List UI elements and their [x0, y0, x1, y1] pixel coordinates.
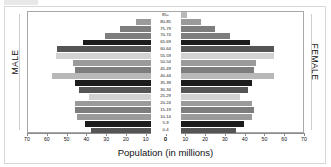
female-bar: [166, 73, 274, 79]
pyramid-row: 85+: [28, 12, 303, 19]
pyramid-row: 40-44: [28, 73, 303, 80]
age-group-label: 20-24: [151, 100, 181, 107]
pyramid-row: 45-49: [28, 66, 303, 73]
male-axis-label: MALE: [10, 39, 20, 85]
pyramid-row: 30-34: [28, 87, 303, 94]
pyramid-row: 55-59: [28, 53, 303, 60]
population-pyramid-figure: MALE FEMALE 85+80-8575-7970-7465-6960-64…: [0, 0, 331, 167]
female-bar: [166, 53, 274, 59]
x-tick-label-right-30: 30: [215, 136, 235, 142]
x-tick-label-right-40: 40: [235, 136, 255, 142]
age-group-label: 70-74: [151, 32, 181, 39]
x-tick-label-left-20: 20: [116, 136, 136, 142]
x-tick-label-left-60: 60: [37, 136, 57, 142]
age-group-label: 75-79: [151, 26, 181, 33]
x-tick-label-left-40: 40: [76, 136, 96, 142]
male-bar: [57, 46, 165, 52]
age-group-label: 5-9: [151, 120, 181, 127]
age-group-label: 15-19: [151, 107, 181, 114]
x-tick-label-left-70: 70: [17, 136, 37, 142]
female-bar: [166, 46, 274, 52]
female-axis-label: FEMALE: [310, 39, 320, 85]
x-tick-label-right-0: 0: [156, 136, 176, 142]
x-tick-label-right-10: 10: [175, 136, 195, 142]
age-group-label: 25-29: [151, 93, 181, 100]
pyramid-row: 65-69: [28, 39, 303, 46]
pyramid-row: 10-14: [28, 114, 303, 121]
pyramid-row: 35-39: [28, 80, 303, 87]
age-group-label: 45-49: [151, 66, 181, 73]
pyramid-row: 5-9: [28, 120, 303, 127]
age-group-label: 10-14: [151, 114, 181, 121]
plot-panel: 85+80-8575-7970-7465-6960-6455-5950-5445…: [27, 11, 304, 133]
age-group-label: 40-44: [151, 73, 181, 80]
pyramid-row: 80-85: [28, 19, 303, 26]
x-tick-label-right-20: 20: [195, 136, 215, 142]
age-group-label: 35-39: [151, 80, 181, 87]
x-tick-label-right-70: 70: [294, 136, 314, 142]
pyramid-row: 15-19: [28, 107, 303, 114]
pyramid-row: 60-64: [28, 46, 303, 53]
male-bar: [56, 53, 166, 59]
age-group-label: 50-54: [151, 59, 181, 66]
age-group-label: 85+: [151, 12, 181, 19]
x-axis-title: Population (in millions): [0, 147, 331, 158]
pyramid-row: 50-54: [28, 59, 303, 66]
x-tick-label-left-50: 50: [57, 136, 77, 142]
pyramid-row: 20-24: [28, 100, 303, 107]
x-tick-label-left-30: 30: [96, 136, 116, 142]
pyramid-row: 70-74: [28, 32, 303, 39]
cropped-header-artifact: [4, 0, 38, 5]
pyramid-row: 25-29: [28, 93, 303, 100]
x-tick-label-right-50: 50: [254, 136, 274, 142]
age-group-label: 0-4: [151, 127, 181, 134]
age-group-label: 30-34: [151, 87, 181, 94]
age-group-label: 65-69: [151, 39, 181, 46]
age-group-label: 55-59: [151, 53, 181, 60]
x-tick-label-left-10: 10: [136, 136, 156, 142]
age-group-label: 60-64: [151, 46, 181, 53]
male-bar: [52, 73, 166, 79]
pyramid-row: 75-79: [28, 26, 303, 33]
age-group-label: 80-85: [151, 19, 181, 26]
x-tick-label-right-60: 60: [274, 136, 294, 142]
